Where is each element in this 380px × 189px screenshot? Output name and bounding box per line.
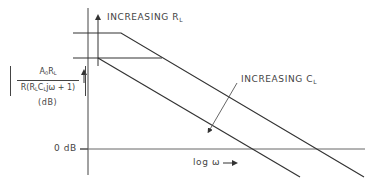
y-axis-label-numerator: A0RL [11,67,85,76]
den-sub1: L [35,86,38,92]
den-post: jω + 1) [46,83,75,92]
y-axis-label-denominator: R(RLCLjω + 1) [11,83,85,92]
y-axis-units: (dB) [38,98,57,107]
increasing-cl-text: INCREASING C [241,74,313,84]
den-pre: R(R [21,83,35,92]
y-axis-label: A0RL R(RLCLjω + 1) [10,66,86,96]
upper-response-curve [73,33,364,177]
den-sub2: L [43,86,46,92]
num-r: R [48,67,54,76]
increasing-rl-label: INCREASING RL [107,12,183,22]
increasing-cl-label: INCREASING CL [241,74,317,84]
increasing-cl-arrow [209,83,237,131]
fraction-bar [17,80,79,81]
increasing-rl-sub: L [179,16,182,23]
x-axis-label: log ω [193,157,220,167]
num-a-sub: 0 [45,70,48,76]
increasing-rl-text: INCREASING R [107,12,179,22]
zero-db-label: 0 dB [54,143,77,153]
increasing-cl-sub: L [313,78,316,85]
num-r-sub: L [54,70,57,76]
